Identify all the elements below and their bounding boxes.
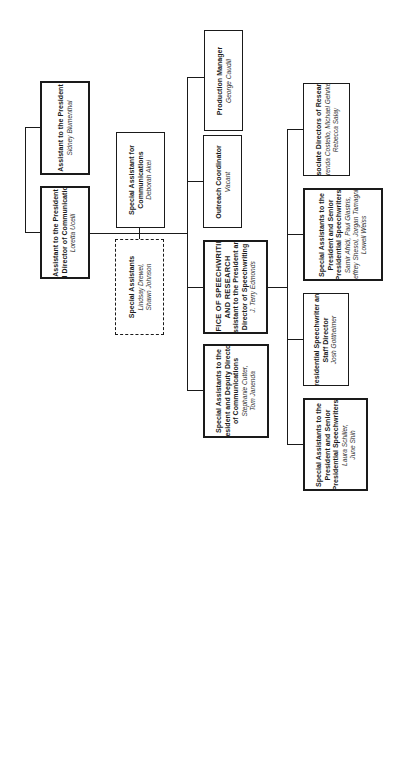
connector-speechwriting-spine [287, 129, 288, 445]
node-production-manager: Production Manager George Caudill [204, 30, 243, 131]
node-name: June Shih [348, 399, 356, 490]
node-title: Production Manager [215, 46, 224, 115]
node-title: Special Assistant for [128, 145, 137, 215]
node-name: Loretta Ucelli [70, 186, 78, 279]
node-title: of Communications [232, 344, 241, 438]
node-name: Lowell Weiss [360, 188, 368, 281]
node-ucelli: Assistant to the President and Director … [40, 186, 90, 279]
connector-main-spine [89, 233, 187, 234]
connector-to-office [187, 287, 203, 288]
node-title: and Director of Communications [61, 186, 70, 279]
node-outreach-coordinator: Outreach Coordinator Vacant [203, 135, 242, 228]
node-title: Assistant to the President [57, 84, 66, 172]
connector-to-production [187, 77, 204, 78]
node-akei: Special Assistant for Communications Deb… [116, 132, 165, 228]
node-title: Special Assistants to the [315, 399, 324, 490]
node-name: Rebecca Salay [331, 83, 339, 176]
connector-left-branch [25, 127, 26, 233]
connector-to-deputy [187, 390, 203, 391]
connector-right-spine [187, 77, 188, 391]
node-title: Associate Directors of Research [314, 83, 323, 176]
node-staff-director: Presidential Speechwriter and Staff Dire… [303, 293, 349, 386]
node-title: Special Assistants to the [215, 344, 224, 438]
node-name: J. Terry Edmonds [249, 240, 257, 334]
connector-to-senior1 [287, 234, 303, 235]
node-blumenthal: Assistant to the President Sidney Blumen… [40, 81, 90, 175]
node-senior-speechwriters-1: Special Assistants to the President and … [303, 188, 383, 281]
connector-to-outreach [187, 181, 203, 182]
node-office-heading: AND RESEARCH [223, 240, 232, 334]
connector-office-out [267, 287, 287, 288]
node-title: President and Senior [327, 188, 336, 281]
node-office-heading: OFFICE OF SPEECHWRITING [214, 240, 223, 334]
node-title: Presidential Speechwriters [335, 188, 344, 281]
node-name: Deborah Akei [145, 145, 153, 215]
connector-to-blumenthal [25, 127, 40, 128]
node-title: Presidential Speechwriters [332, 399, 341, 490]
node-name: Tom Janenda [249, 344, 257, 438]
org-chart: Assistant to the President Sidney Blumen… [0, 0, 398, 780]
node-name: Jeffrey Shesol, Jorgan Tamagni, [352, 188, 360, 281]
node-name: Sidney Blumenthal [65, 84, 73, 172]
node-title: Presidential Speechwriter and [313, 293, 322, 386]
connector-to-research [287, 129, 303, 130]
node-title: President and Deputy Directors [224, 344, 233, 438]
node-deputy-directors: Special Assistants to the President and … [203, 344, 269, 438]
node-office-of-speechwriting: OFFICE OF SPEECHWRITING AND RESEARCH Ass… [203, 240, 268, 334]
connector-to-ucelli-left [25, 232, 40, 233]
node-name: Stephanie Cutter, [241, 344, 249, 438]
node-title: President and Senior [323, 399, 332, 490]
connector-akei-junction [139, 227, 140, 239]
node-title: Assistant to the President and [232, 240, 241, 334]
node-name: Samir Afridi, Paul Glastris, [344, 188, 352, 281]
node-name: Laura Schiller, [340, 399, 348, 490]
node-title: Assistant to the President [52, 186, 61, 279]
node-title: Staff Director [322, 293, 331, 386]
node-name: Brenda Costello, Michael Gehrke, [323, 83, 331, 176]
node-research-directors: Associate Directors of Research Brenda C… [303, 83, 350, 176]
node-senior-speechwriters-2: Special Assistants to the President and … [303, 398, 368, 491]
node-name: Vacant [223, 145, 231, 219]
connector-to-senior2 [287, 444, 303, 445]
connector-to-staffdir [287, 339, 303, 340]
node-name: Josh Gottheimer [331, 293, 339, 386]
node-name: Lindsay Drewel, [136, 256, 144, 319]
node-name: Shawn Johnson [144, 256, 152, 319]
node-title: Outreach Coordinator [214, 145, 223, 219]
node-title: Director of Speechwriting [241, 240, 250, 334]
node-special-assistants: Special Assistants Lindsay Drewel, Shawn… [115, 239, 164, 335]
node-name: George Caudill [224, 46, 232, 115]
node-title: Special Assistants to the [318, 188, 327, 281]
node-title: Special Assistants [127, 256, 136, 319]
node-title: Communications [136, 145, 145, 215]
